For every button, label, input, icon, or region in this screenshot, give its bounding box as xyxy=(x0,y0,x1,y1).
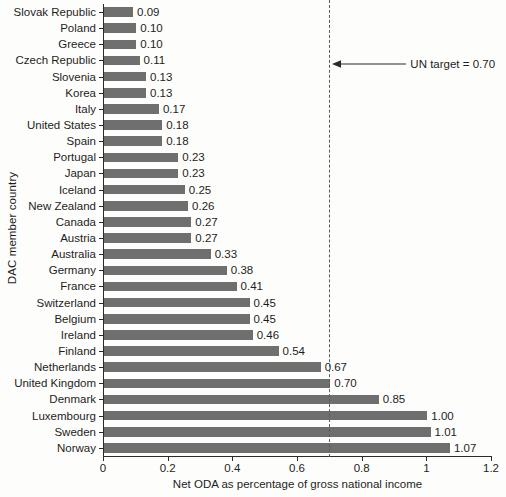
x-axis-tick-label: 0.8 xyxy=(354,462,370,474)
bar-row: Poland0.10 xyxy=(103,20,506,36)
category-label: New Zealand xyxy=(28,198,96,214)
category-label: France xyxy=(60,278,96,294)
bar-value-label: 1.00 xyxy=(431,408,453,424)
category-label: Japan xyxy=(65,165,96,181)
un-target-annotation: UN target = 0.70 xyxy=(332,56,495,72)
bar-row: Australia0.33 xyxy=(103,246,506,262)
bar-value-label: 0.46 xyxy=(257,327,279,343)
bar-row: Norway1.07 xyxy=(103,440,506,456)
left-arrow-icon xyxy=(332,58,406,70)
bar-row: Italy0.17 xyxy=(103,101,506,117)
category-label: United States xyxy=(27,117,96,133)
bar-row: United States0.18 xyxy=(103,117,506,133)
bar xyxy=(104,72,146,82)
bar-value-label: 0.23 xyxy=(182,149,204,165)
bar xyxy=(104,40,136,50)
y-axis-tick xyxy=(99,286,103,287)
bar-value-label: 1.07 xyxy=(454,440,476,456)
category-label: Slovak Republic xyxy=(14,4,96,20)
category-label: Greece xyxy=(58,36,96,52)
bar xyxy=(104,362,321,372)
category-label: Portugal xyxy=(53,149,96,165)
y-axis-tick xyxy=(99,254,103,255)
bar-row: Finland0.54 xyxy=(103,343,506,359)
y-axis-tick xyxy=(99,238,103,239)
category-label: Norway xyxy=(57,440,96,456)
bar-row: New Zealand0.26 xyxy=(103,198,506,214)
un-target-line xyxy=(329,0,330,457)
bar-row: Spain0.18 xyxy=(103,133,506,149)
bar-row: France0.41 xyxy=(103,278,506,294)
category-label: Czech Republic xyxy=(15,52,96,68)
category-label: Slovenia xyxy=(52,69,96,85)
plot-area: Slovak Republic0.09Poland0.10Greece0.10C… xyxy=(103,4,491,456)
bar-row: Belgium0.45 xyxy=(103,311,506,327)
category-label: Australia xyxy=(51,246,96,262)
y-axis-tick xyxy=(99,93,103,94)
y-axis-tick xyxy=(99,141,103,142)
category-label: United Kingdom xyxy=(14,375,96,391)
y-axis-tick xyxy=(99,44,103,45)
y-axis-tick xyxy=(99,319,103,320)
bar-value-label: 0.45 xyxy=(254,311,276,327)
y-axis-tick xyxy=(99,28,103,29)
x-axis-tick-label: 1 xyxy=(423,462,429,474)
category-label: Belgium xyxy=(54,311,96,327)
y-axis-tick xyxy=(99,448,103,449)
y-axis-tick xyxy=(99,416,103,417)
bar xyxy=(104,169,178,179)
bar-row: Ireland0.46 xyxy=(103,327,506,343)
bar xyxy=(104,266,227,276)
bar-value-label: 0.27 xyxy=(195,214,217,230)
bar-row: Korea0.13 xyxy=(103,85,506,101)
bar-row: Sweden1.01 xyxy=(103,424,506,440)
y-axis-tick xyxy=(99,367,103,368)
x-axis-tick-label: 0 xyxy=(100,462,106,474)
bar xyxy=(104,298,250,308)
y-axis-tick xyxy=(99,303,103,304)
bar-value-label: 0.13 xyxy=(150,85,172,101)
y-axis-tick xyxy=(99,60,103,61)
bar-row: Japan0.23 xyxy=(103,165,506,181)
y-axis-tick xyxy=(99,173,103,174)
x-axis-tick xyxy=(491,456,492,461)
bar-value-label: 1.01 xyxy=(435,424,457,440)
bar xyxy=(104,201,188,211)
category-label: Poland xyxy=(60,20,96,36)
bar xyxy=(104,153,178,163)
y-axis-tick xyxy=(99,125,103,126)
y-axis-tick xyxy=(99,432,103,433)
x-axis-title: Net ODA as percentage of gross national … xyxy=(103,478,492,490)
y-axis-tick xyxy=(99,157,103,158)
bar-value-label: 0.18 xyxy=(166,133,188,149)
category-label: Korea xyxy=(65,85,96,101)
category-label: Denmark xyxy=(49,391,96,407)
x-axis-tick xyxy=(297,456,298,461)
category-label: Austria xyxy=(60,230,96,246)
category-label: Netherlands xyxy=(34,359,96,375)
bar xyxy=(104,185,185,195)
bar xyxy=(104,88,146,98)
x-axis-tick xyxy=(168,456,169,461)
bar-value-label: 0.67 xyxy=(325,359,347,375)
chart-figure: DAC member country Slovak Republic0.09Po… xyxy=(0,0,506,497)
bar-value-label: 0.38 xyxy=(231,262,253,278)
category-label: Switzerland xyxy=(37,295,96,311)
un-target-label: UN target = 0.70 xyxy=(410,58,495,70)
bar-value-label: 0.18 xyxy=(166,117,188,133)
bar xyxy=(104,427,431,437)
bar-row: Greece0.10 xyxy=(103,36,506,52)
y-axis-tick xyxy=(99,12,103,13)
bar-value-label: 0.85 xyxy=(383,391,405,407)
bar-value-label: 0.10 xyxy=(140,20,162,36)
bar-row: Germany0.38 xyxy=(103,262,506,278)
bar-row: Portugal0.23 xyxy=(103,149,506,165)
y-axis-title-text: DAC member country xyxy=(6,171,18,283)
x-axis-tick xyxy=(426,456,427,461)
bar-row: Denmark0.85 xyxy=(103,391,506,407)
bar xyxy=(104,56,140,66)
y-axis-tick xyxy=(99,77,103,78)
category-label: Luxembourg xyxy=(32,408,96,424)
y-axis-tick xyxy=(99,270,103,271)
y-axis-tick xyxy=(99,399,103,400)
